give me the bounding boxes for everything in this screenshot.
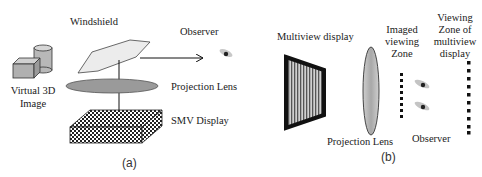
viewing-zone-line1: Viewing (428, 12, 482, 24)
windshield-label: Windshield (70, 16, 118, 28)
observer-eye-icon-lower (413, 100, 430, 112)
virtual-image-label-line1: Virtual 3D (8, 85, 58, 97)
imaged-viewing-zone-label: Imaged viewing Zone (377, 24, 427, 60)
viewing-zone-label: Viewing Zone of multiview display (428, 12, 482, 60)
projection-lens-a (66, 79, 158, 93)
smv-display-label: SMV Display (171, 115, 229, 127)
multiview-display-label: Multiview display (277, 31, 354, 43)
viewing-zone-line4: display (428, 48, 482, 60)
multiview-display-screen (286, 57, 324, 128)
imaged-viewing-zone-marker (400, 73, 403, 118)
observer-eye-icon-upper (413, 78, 430, 90)
imaged-zone-line3: Zone (377, 48, 427, 60)
observer-label-a: Observer (180, 26, 218, 38)
viewing-zone-line3: multiview (428, 36, 482, 48)
virtual-3d-image-icon (13, 45, 52, 78)
virtual-image-label: Virtual 3D Image (8, 85, 58, 110)
projection-lens-label-b: Projection Lens (327, 136, 393, 148)
smv-display-box (70, 110, 162, 143)
projection-lens-label-a: Projection Lens (171, 81, 237, 93)
imaged-zone-line1: Imaged (377, 24, 427, 36)
observer-label-b: Observer (412, 133, 450, 145)
caption-b: (b) (381, 150, 396, 164)
windshield-shape (78, 40, 150, 73)
virtual-image-label-line2: Image (8, 98, 58, 110)
projection-lens-b (363, 47, 379, 135)
imaged-zone-line2: viewing (377, 36, 427, 48)
observer-eye-icon (218, 47, 233, 58)
viewing-zone-line2: Zone of (428, 24, 482, 36)
viewing-zone-marker (467, 61, 471, 135)
caption-a: (a) (122, 156, 137, 170)
